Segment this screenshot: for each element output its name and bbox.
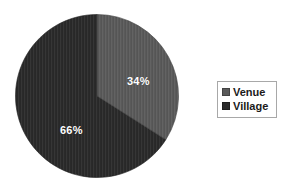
- legend-label-venue: Venue: [233, 87, 265, 98]
- legend-swatch-venue: [222, 88, 230, 96]
- pie-svg: [15, 14, 179, 178]
- slice-label-venue: 34%: [127, 76, 150, 87]
- legend-swatch-village: [222, 102, 230, 110]
- legend-item-village[interactable]: Village: [222, 99, 272, 113]
- pie-chart-figure: 34% 66% Venue Village: [0, 0, 287, 193]
- pie-chart-graphic: [15, 14, 179, 178]
- legend: Venue Village: [217, 81, 277, 118]
- legend-item-venue[interactable]: Venue: [222, 85, 272, 99]
- slice-label-village: 66%: [60, 125, 83, 136]
- legend-label-village: Village: [233, 101, 268, 112]
- pie-texture-overlay: [15, 15, 178, 178]
